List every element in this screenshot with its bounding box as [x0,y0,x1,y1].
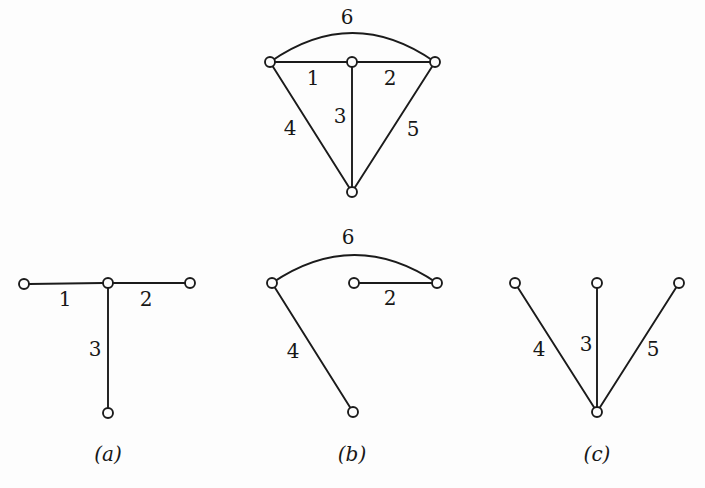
graph-node [347,187,357,197]
edge-label: 3 [580,332,593,356]
graph-edge [600,287,677,408]
graph-node [19,279,29,289]
graph-node [185,278,195,288]
graph-caption: (c) [584,442,611,466]
figure-canvas: 123456123(a)246(b)345(c) [0,0,705,488]
graph-node [348,407,358,417]
graph-a: 123(a) [19,278,195,466]
graph-node [103,278,113,288]
edge-label: 4 [533,337,546,361]
graph-edge [29,283,103,284]
edge-label: 1 [307,66,320,90]
graph-c: 345(c) [510,278,684,466]
graph-figure: 123456123(a)246(b)345(c) [0,0,705,488]
edge-label: 6 [342,225,355,249]
graph-node [347,57,357,67]
edge-label: 3 [89,337,102,361]
graph-b: 246(b) [267,225,442,466]
graph-node [432,278,442,288]
graph-node [430,57,440,67]
edge-label: 3 [334,104,347,128]
graph-node [103,408,113,418]
edge-label: 1 [59,287,72,311]
graph-node [510,278,520,288]
graph-node [674,278,684,288]
edge-label: 2 [384,286,397,310]
graph-caption: (a) [94,442,122,466]
edge-label: 2 [384,66,397,90]
edge-label: 6 [341,5,354,29]
graph-node [265,57,275,67]
graph-node [267,278,277,288]
edge-label: 4 [284,116,297,140]
graph-caption: (b) [338,442,366,466]
graph-node [592,407,602,417]
graph-node [349,278,359,288]
edge-label: 4 [287,339,300,363]
edge-label: 5 [647,337,660,361]
graph-top: 123456 [265,5,440,198]
edge-label: 5 [407,117,420,141]
edge-label: 2 [140,287,153,311]
graph-node [592,278,602,288]
